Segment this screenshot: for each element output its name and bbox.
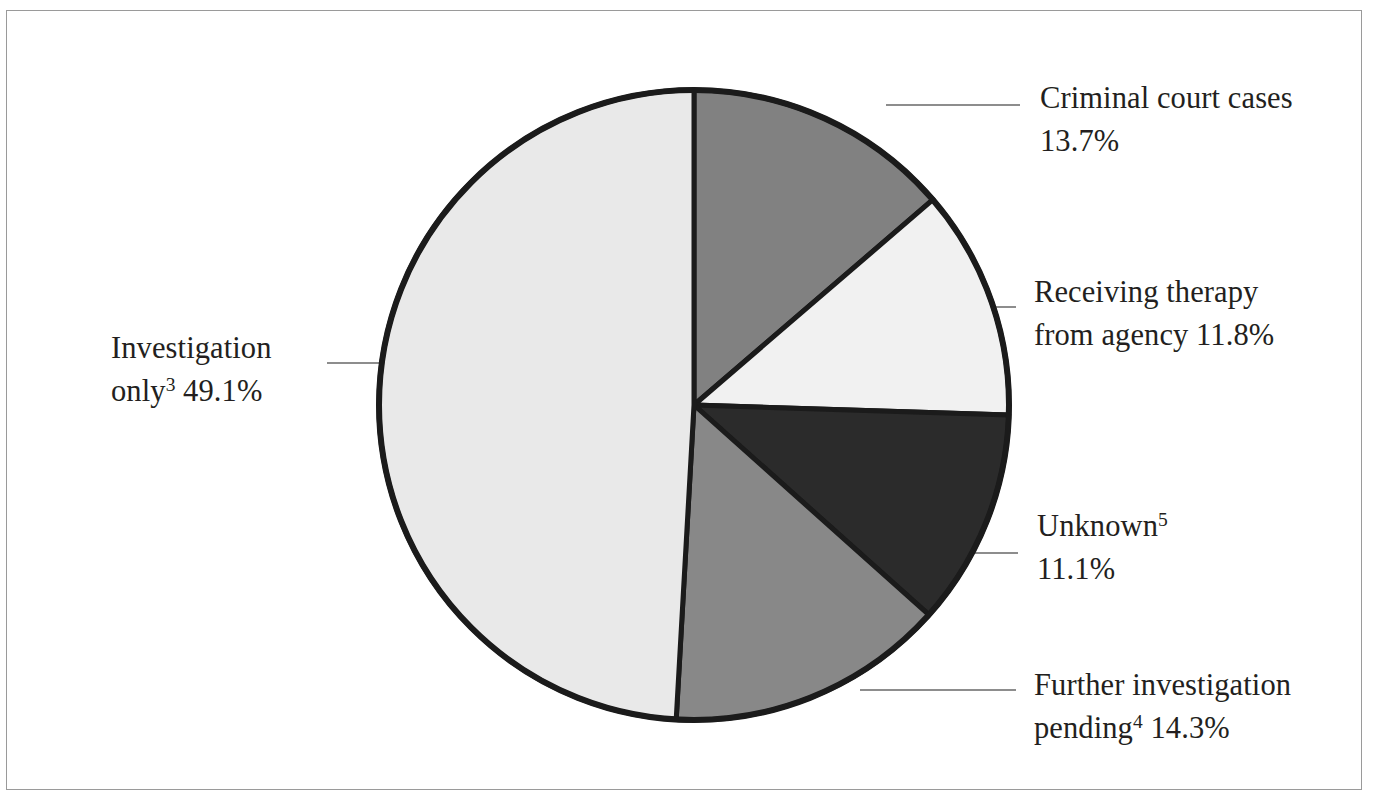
pie-label-investigation-line2: only3 49.1% [111, 370, 272, 413]
pie-label-further-footnote-marker: 4 [1133, 711, 1143, 732]
pie-label-unknown: Unknown5 11.1% [1037, 505, 1168, 592]
pie-label-investigation-text: only [111, 374, 166, 408]
pie-label-criminal-line2: 13.7% [1040, 120, 1293, 163]
pie-label-therapy-line2: from agency 11.8% [1034, 314, 1274, 357]
pie-label-investigation-only: Investigation only3 49.1% [111, 327, 272, 414]
pie-slices [379, 90, 1009, 720]
pie-label-receiving-therapy: Receiving therapy from agency 11.8% [1034, 271, 1274, 358]
pie-label-criminal-court-cases: Criminal court cases 13.7% [1040, 77, 1293, 164]
pie-label-unknown-text: Unknown [1037, 509, 1158, 543]
pie-label-further-value: 14.3% [1143, 711, 1230, 745]
pie-label-investigation-value: 49.1% [175, 374, 262, 408]
pie-label-further-line1: Further investigation [1034, 668, 1291, 702]
pie-label-unknown-line2: 11.1% [1037, 548, 1168, 591]
pie-label-investigation-footnote-marker: 3 [166, 374, 176, 395]
pie-label-unknown-line1: Unknown5 [1037, 509, 1168, 543]
pie-label-therapy-line1: Receiving therapy [1034, 275, 1258, 309]
pie-label-further-text: pending [1034, 711, 1133, 745]
pie-label-further-investigation-pending: Further investigation pending4 14.3% [1034, 664, 1291, 751]
pie-label-investigation-line1: Investigation [111, 331, 272, 365]
pie-label-criminal-line1: Criminal court cases [1040, 81, 1293, 115]
pie-chart-figure: Criminal court cases 13.7% Receiving the… [0, 0, 1374, 806]
pie-label-unknown-footnote-marker: 5 [1158, 509, 1168, 530]
chart-area: Criminal court cases 13.7% Receiving the… [0, 0, 1374, 806]
pie-label-further-line2: pending4 14.3% [1034, 707, 1291, 750]
pie-slice-investigation-only[interactable] [379, 90, 694, 720]
